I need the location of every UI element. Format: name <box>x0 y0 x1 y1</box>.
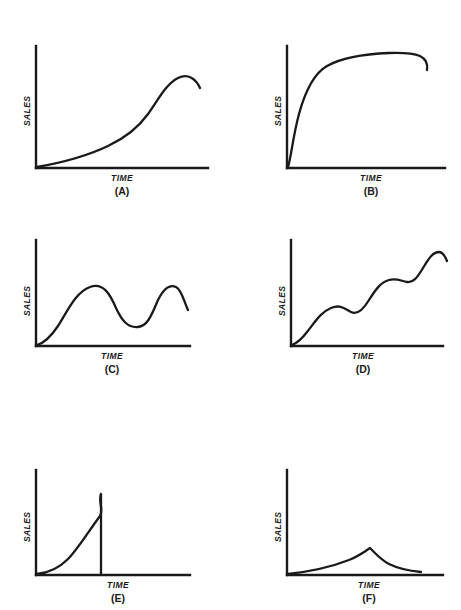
panel-caption-b: (B) <box>331 185 411 197</box>
chart-b-plot <box>231 18 461 178</box>
curve-e <box>37 494 101 574</box>
chart-panel-b: SALES TIME (B) <box>231 18 461 218</box>
chart-panel-f: SALES TIME (F) <box>231 440 461 610</box>
curve-a <box>37 76 200 167</box>
x-axis-label-e: TIME <box>78 580 158 590</box>
chart-panel-a: SALES TIME (A) <box>0 18 230 218</box>
curve-d <box>292 252 447 345</box>
chart-panel-c: SALES TIME (C) <box>0 228 230 428</box>
y-axis-label-a: SALES <box>22 96 32 126</box>
chart-a-plot <box>0 18 230 178</box>
panel-caption-e: (E) <box>78 592 158 604</box>
curve-f <box>288 548 421 574</box>
chart-panel-e: SALES TIME (E) <box>0 440 230 610</box>
panel-caption-d: (D) <box>323 363 403 375</box>
x-axis-label-b: TIME <box>331 173 411 183</box>
curve-c <box>37 286 188 345</box>
x-axis-label-f: TIME <box>329 580 409 590</box>
chart-panel-d: SALES TIME (D) <box>231 228 461 428</box>
panel-caption-f: (F) <box>329 592 409 604</box>
y-axis-label-b: SALES <box>273 96 283 126</box>
y-axis-label-d: SALES <box>277 286 287 316</box>
x-axis-label-a: TIME <box>82 173 162 183</box>
panel-caption-c: (C) <box>72 363 152 375</box>
chart-f-plot <box>231 440 461 600</box>
x-axis-label-c: TIME <box>72 351 152 361</box>
y-axis-label-e: SALES <box>22 512 32 542</box>
x-axis-label-d: TIME <box>323 351 403 361</box>
figure-sheet: SALES TIME (A) SALES TIME (B) SALES TIME… <box>0 0 461 610</box>
y-axis-label-f: SALES <box>273 512 283 542</box>
chart-e-plot <box>0 440 230 600</box>
curve-b <box>288 53 427 167</box>
panel-caption-a: (A) <box>82 185 162 197</box>
y-axis-label-c: SALES <box>22 286 32 316</box>
